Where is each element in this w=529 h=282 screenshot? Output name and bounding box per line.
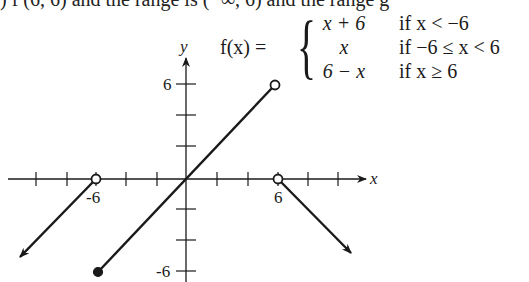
function-graph: x y -6 6 6 -6	[0, 0, 529, 282]
segment-right	[281, 182, 351, 253]
x-axis-label: x	[369, 169, 378, 188]
open-point-marker	[92, 175, 101, 184]
y-tick-label: -6	[156, 262, 170, 281]
closed-point-marker	[94, 268, 103, 277]
y-axis-label: y	[178, 37, 188, 56]
x-tick-label: -6	[86, 188, 100, 207]
open-point-marker	[274, 175, 283, 184]
open-point-marker	[271, 81, 280, 90]
x-tick-label: 6	[274, 188, 283, 207]
segment-left	[20, 182, 93, 257]
y-tick-label: 6	[163, 75, 172, 94]
